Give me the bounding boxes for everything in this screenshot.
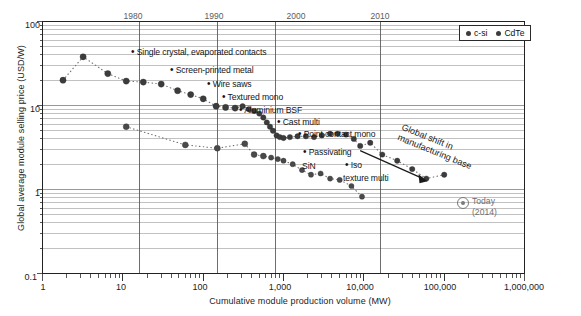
- x-tick-100000: 100,000: [414, 282, 466, 292]
- callout-label: Aluminium BSF: [244, 105, 302, 115]
- callout-bullet-icon: •: [207, 78, 210, 89]
- callout-screen-printed: • Screen-printed metal: [170, 65, 253, 75]
- callout-aluminium-bsf: • Aluminium BSF: [239, 105, 302, 115]
- year-tick-2000: 2000: [276, 11, 316, 21]
- x-tick-10000: 10,000: [338, 282, 382, 292]
- legend-marker-icon: [496, 31, 501, 36]
- callout-bullet-icon: •: [222, 91, 225, 102]
- legend-item-c-si[interactable]: c-si: [466, 28, 487, 38]
- callout-single-crystal: • Single crystal, evaporated contacts: [131, 47, 266, 57]
- legend-marker-icon: [466, 31, 471, 36]
- legend-label-cdte: CdTe: [504, 28, 524, 38]
- callout-bullet-icon: •: [303, 146, 306, 157]
- callout-bullet-icon: •: [298, 128, 301, 139]
- legend-item-cdte[interactable]: CdTe: [496, 28, 524, 38]
- callout-sin: SiN: [302, 161, 316, 171]
- y-tick-100: 100: [4, 20, 40, 30]
- callout-label: Iso: [351, 160, 362, 170]
- x-tick-1: 1: [31, 282, 55, 292]
- callout-label: Cast multi: [283, 117, 320, 127]
- today-marker: Today (2014): [457, 196, 497, 218]
- callout-bullet-icon: •: [239, 104, 242, 115]
- x-tick-10: 10: [109, 282, 133, 292]
- x-tick-1000: 1,000: [260, 282, 300, 292]
- chart-figure: Global average module selling price (USD…: [0, 0, 581, 316]
- callout-label: Single crystal, evaporated contacts: [137, 47, 267, 57]
- callout-bullet-icon: •: [170, 64, 173, 75]
- callout-bullet-icon: •: [277, 116, 280, 127]
- year-tick-2010: 2010: [360, 11, 400, 21]
- year-tick-1980: 1980: [113, 11, 153, 21]
- y-tick-0.1: 0.1: [1, 272, 37, 282]
- x-axis-title: Cumulative module production volume (MW): [120, 296, 480, 306]
- today-label: Today: [472, 196, 495, 206]
- callout-texture-multi: texture multi: [343, 173, 389, 183]
- callout-label: Passivating: [309, 147, 352, 157]
- callout-iso: • Iso: [345, 160, 362, 170]
- year-tick-1990: 1990: [194, 11, 234, 21]
- callout-label: Textured mono: [228, 92, 284, 102]
- callout-bullet-icon: •: [131, 46, 134, 57]
- legend-label-c-si: c-si: [474, 28, 487, 38]
- chart-canvas: [0, 0, 581, 316]
- callout-bullet-icon: •: [345, 159, 348, 170]
- today-text: Today (2014): [472, 196, 497, 218]
- callout-label: Wire saws: [213, 79, 252, 89]
- callout-cast-multi: • Cast multi: [277, 117, 320, 127]
- callout-label: Point contact mono: [304, 129, 376, 139]
- y-tick-10: 10: [4, 104, 40, 114]
- x-tick-100: 100: [188, 282, 212, 292]
- callout-point-contact-mono: • Point contact mono: [298, 129, 375, 139]
- today-target-icon: [457, 197, 469, 209]
- callout-label: Screen-printed metal: [176, 65, 254, 75]
- callout-passivating: • Passivating: [303, 147, 352, 157]
- y-axis-title: Global average module selling price (USD…: [16, 18, 26, 258]
- callout-wire-saws: • Wire saws: [207, 79, 251, 89]
- y-tick-1: 1: [4, 188, 40, 198]
- today-sublabel: (2014): [472, 207, 497, 217]
- x-tick-1000000: 1,000,000: [491, 282, 557, 292]
- callout-textured-mono: • Textured mono: [222, 92, 283, 102]
- legend: c-si CdTe: [459, 25, 531, 41]
